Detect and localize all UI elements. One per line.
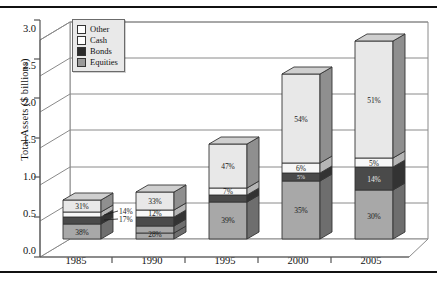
label-2005-other: 51%	[367, 96, 380, 105]
legend-label-bonds: Bonds	[90, 47, 112, 56]
label-1995-cash: 7%	[223, 187, 233, 196]
chart-canvas	[0, 8, 437, 270]
label-1995-other: 47%	[221, 162, 234, 171]
legend-item-equities[interactable]: Equities	[77, 57, 118, 67]
callout-1985-bonds: 17%	[119, 215, 133, 224]
label-2000-other: 54%	[294, 115, 307, 124]
label-2000-cash: 6%	[296, 164, 306, 173]
column-1985	[63, 193, 118, 239]
label-1990-equities: 28%	[148, 230, 161, 239]
gray-swatch-icon	[77, 58, 86, 67]
label-2005-equities: 30%	[367, 212, 380, 221]
legend-item-other[interactable]: Other	[77, 24, 118, 34]
x-axis-spine	[40, 257, 409, 263]
legend-label-other: Other	[90, 25, 109, 34]
label-2005-bonds: 14%	[367, 175, 380, 184]
legend-item-cash[interactable]: Cash	[77, 35, 118, 45]
label-2000-equities: 35%	[294, 206, 307, 215]
plot-area: Total Assets ($ billions) 3.0 2.5 2.0 1.…	[0, 8, 437, 270]
chart-figure: Total Assets ($ billions) 3.0 2.5 2.0 1.…	[0, 0, 437, 282]
label-1985-other: 31%	[75, 202, 88, 211]
black-swatch-icon	[77, 47, 86, 56]
column-2005	[355, 34, 405, 239]
legend-label-cash: Cash	[90, 36, 107, 45]
label-2005-cash: 5%	[369, 159, 379, 168]
white-swatch-icon	[77, 25, 86, 34]
white-swatch-icon	[77, 36, 86, 45]
label-1995-equities: 39%	[221, 216, 234, 225]
chart-legend: Other Cash Bonds Equities	[72, 19, 125, 72]
floor-plane	[40, 239, 428, 257]
legend-item-bonds[interactable]: Bonds	[77, 46, 118, 56]
label-1990-cash: 12%	[148, 209, 161, 218]
bottom-rule	[0, 271, 437, 273]
label-1985-equities: 38%	[75, 228, 88, 237]
label-1990-other: 33%	[148, 197, 161, 206]
label-2000-bonds: 5%	[297, 174, 305, 180]
y-axis-spine	[34, 20, 40, 257]
legend-label-equities: Equities	[90, 58, 118, 67]
